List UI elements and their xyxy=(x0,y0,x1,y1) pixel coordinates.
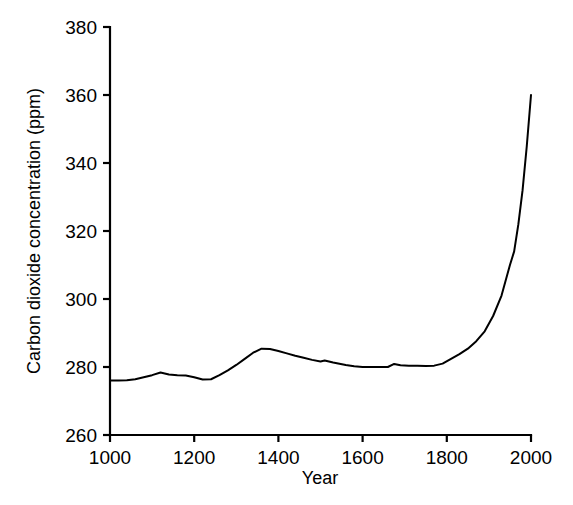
y-tick-label: 340 xyxy=(65,153,97,174)
y-tick-label: 280 xyxy=(65,357,97,378)
y-tick-label: 380 xyxy=(65,17,97,38)
x-axis-title: Year xyxy=(302,468,338,488)
x-tick-label: 1200 xyxy=(173,447,215,468)
y-tick-label: 300 xyxy=(65,289,97,310)
x-tick-label: 1000 xyxy=(89,447,131,468)
x-tick-label: 1600 xyxy=(341,447,383,468)
co2-concentration-chart: 260280300320340360380 100012001400160018… xyxy=(0,0,573,505)
y-axis-title: Carbon dioxide concentration (ppm) xyxy=(24,88,44,374)
x-tick-label: 1400 xyxy=(257,447,299,468)
x-tick-label: 1800 xyxy=(426,447,468,468)
y-tick-label: 320 xyxy=(65,221,97,242)
x-tick-label: 2000 xyxy=(510,447,552,468)
chart-canvas: 260280300320340360380 100012001400160018… xyxy=(0,0,573,505)
y-tick-label: 360 xyxy=(65,85,97,106)
y-tick-label: 260 xyxy=(65,425,97,446)
